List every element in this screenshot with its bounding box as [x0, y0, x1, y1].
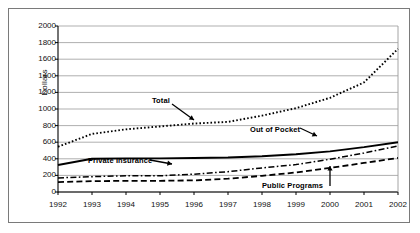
plot-canvas — [0, 0, 420, 233]
annotation-public-programs: Public Programs — [262, 181, 323, 190]
series-total — [58, 49, 398, 147]
annotation-out-of-pocket: Out of Pocket — [250, 125, 300, 134]
axes — [55, 26, 398, 195]
gridlines — [58, 26, 398, 192]
chart-figure: Dollars 02004006008001000120014001600180… — [0, 0, 420, 233]
arrow-total-head — [189, 115, 194, 120]
annotation-private-insurance: Private Insurance — [88, 156, 152, 165]
arrow-private-insurance-head — [167, 161, 172, 166]
annotation-total: Total — [152, 96, 170, 105]
annotation-arrows — [150, 104, 333, 186]
